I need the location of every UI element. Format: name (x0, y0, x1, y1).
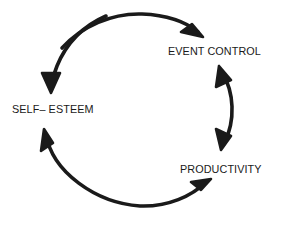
node-label-event-control: EVENT CONTROL (168, 45, 261, 57)
node-label-productivity: PRODUCTIVITY (180, 163, 262, 175)
arrow-event-control-productivity-bidirectional (216, 66, 232, 150)
arrow-event-control-to-self-esteem (42, 16, 106, 93)
cycle-diagram: SELF– ESTEEM EVENT CONTROL PRODUCTIVITY (0, 0, 281, 227)
node-label-self-esteem: SELF– ESTEEM (12, 103, 94, 115)
